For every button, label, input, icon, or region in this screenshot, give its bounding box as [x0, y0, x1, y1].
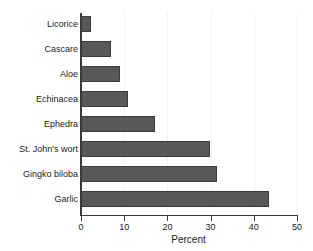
- x-axis-line: [80, 215, 298, 216]
- bar: [81, 166, 217, 182]
- bar-row: Garlic: [0, 191, 313, 207]
- x-tick-label: 50: [292, 222, 302, 232]
- category-label: Aloe: [0, 66, 78, 82]
- bar: [81, 16, 91, 32]
- x-tick: [124, 216, 125, 221]
- bar: [81, 116, 155, 132]
- x-tick: [81, 216, 82, 221]
- category-label: Licorice: [0, 16, 78, 32]
- category-label: Garlic: [0, 191, 78, 207]
- bar: [81, 41, 111, 57]
- bar-row: Aloe: [0, 66, 313, 82]
- x-tick-label: 20: [162, 222, 172, 232]
- x-axis-title-text: Percent: [107, 234, 205, 245]
- category-label: Ephedra: [0, 116, 78, 132]
- x-axis-title: Percent: [0, 234, 313, 245]
- x-tick-label: 40: [249, 222, 259, 232]
- bar-row: St. John's wort: [0, 141, 313, 157]
- x-tick: [254, 216, 255, 221]
- category-label: St. John's wort: [0, 141, 78, 157]
- x-tick-label: 0: [78, 222, 83, 232]
- bar-row: Echinacea: [0, 91, 313, 107]
- category-label: Cascare: [0, 41, 78, 57]
- bar: [81, 191, 269, 207]
- bar-chart: LicoriceCascareAloeEchinaceaEphedraSt. J…: [0, 0, 313, 251]
- x-tick: [167, 216, 168, 221]
- bar-row: Licorice: [0, 16, 313, 32]
- category-label: Gingko biloba: [0, 166, 78, 182]
- bar: [81, 66, 120, 82]
- x-tick-label: 10: [119, 222, 129, 232]
- bar-row: Gingko biloba: [0, 166, 313, 182]
- bar: [81, 91, 128, 107]
- category-label: Echinacea: [0, 91, 78, 107]
- bar-row: Ephedra: [0, 116, 313, 132]
- bar-row: Cascare: [0, 41, 313, 57]
- y-axis-line: [80, 13, 82, 216]
- bar: [81, 141, 210, 157]
- x-tick: [211, 216, 212, 221]
- x-tick: [297, 216, 298, 221]
- x-tick-label: 30: [206, 222, 216, 232]
